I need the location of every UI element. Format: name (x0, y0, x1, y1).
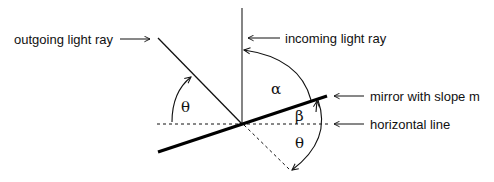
incoming-label: incoming light ray (285, 31, 387, 46)
reflection-diagram: θ α β θ outgoing light ray incoming ligh… (0, 0, 494, 182)
mirror-label: mirror with slope m (370, 89, 480, 104)
beta-label: β (295, 107, 304, 125)
reflected-extension (244, 125, 290, 170)
alpha-label: α (271, 80, 281, 98)
outgoing-light-ray (158, 38, 242, 124)
theta-left-label: θ (181, 98, 190, 116)
horizontal-label: horizontal line (370, 117, 450, 132)
outgoing-label: outgoing light ray (14, 32, 114, 47)
beta-arc-arrow (316, 101, 317, 112)
theta-right-label: θ (295, 134, 304, 152)
